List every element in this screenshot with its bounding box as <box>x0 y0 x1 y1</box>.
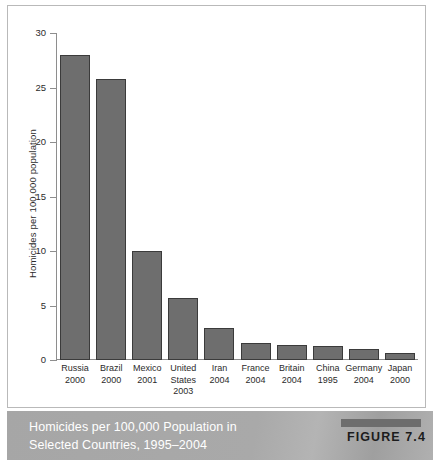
bar[interactable] <box>313 346 343 360</box>
bar[interactable] <box>60 55 90 360</box>
bar[interactable] <box>349 349 379 360</box>
y-tick-label: 15 <box>35 191 46 202</box>
y-tick-label: 25 <box>35 82 46 93</box>
y-tick: 15 <box>50 197 57 198</box>
bar[interactable] <box>277 345 307 360</box>
bar[interactable] <box>385 353 415 360</box>
figure-caption: Homicides per 100,000 Population in Sele… <box>29 418 319 454</box>
bar[interactable] <box>241 343 271 360</box>
figure-badge: FIGURE 7.4 <box>322 417 428 455</box>
bar-series <box>57 33 418 360</box>
y-tick: 20 <box>50 142 57 143</box>
x-axis-labels: Russia2000Brazil2000Mexico2001UnitedStat… <box>57 363 418 409</box>
y-tick-label: 20 <box>35 136 46 147</box>
y-tick-label: 5 <box>41 300 46 311</box>
caption-band: Homicides per 100,000 Population in Sele… <box>7 411 433 460</box>
y-tick: 25 <box>50 88 57 89</box>
bar[interactable] <box>204 328 234 360</box>
caption-line-1: Homicides per 100,000 Population in <box>29 418 319 436</box>
y-tick: 10 <box>50 251 57 252</box>
figure-number-label: FIGURE 7.4 <box>322 430 426 444</box>
figure-container: Homicides per 100,000 population 0510152… <box>0 0 433 460</box>
y-tick-label: 30 <box>35 27 46 38</box>
y-tick-label: 10 <box>35 245 46 256</box>
y-axis-title: Homicides per 100,000 population <box>27 74 38 334</box>
y-tick: 30 <box>50 33 57 34</box>
y-tick: 5 <box>50 306 57 307</box>
y-tick: 0 <box>50 360 57 361</box>
caption-line-2: Selected Countries, 1995–2004 <box>29 436 319 454</box>
chart-panel: Homicides per 100,000 population 0510152… <box>7 5 426 408</box>
figure-rule-bar <box>341 419 421 427</box>
bar[interactable] <box>132 251 162 360</box>
bar[interactable] <box>168 298 198 360</box>
x-tick-label: Japan2000 <box>377 363 423 386</box>
plot-area: Homicides per 100,000 population 0510152… <box>8 6 427 409</box>
y-tick-label: 0 <box>41 354 46 365</box>
bar[interactable] <box>96 79 126 360</box>
